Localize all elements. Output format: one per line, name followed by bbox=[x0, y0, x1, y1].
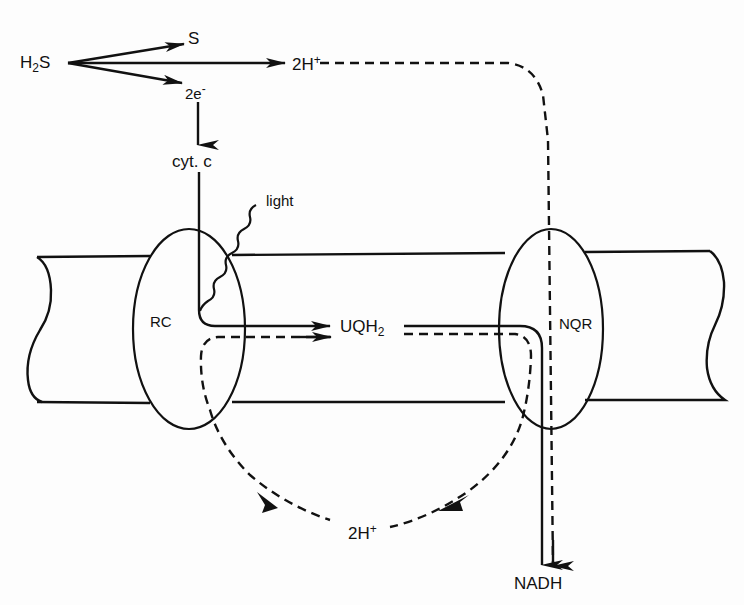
sulfur-label: S bbox=[188, 30, 199, 47]
diagram-graphics bbox=[0, 0, 744, 605]
proton-path-rc-uqh2 bbox=[201, 337, 330, 520]
protons-bottom-label: 2H+ bbox=[348, 523, 377, 542]
nqr-label: NQR bbox=[559, 316, 592, 331]
h2s-arrows bbox=[68, 44, 285, 83]
proton-path-top bbox=[320, 63, 553, 565]
cytochrome-c-label: cyt. c bbox=[172, 153, 212, 170]
protons-top-label: 2H+ bbox=[292, 54, 321, 73]
arc-arrowhead-left bbox=[257, 492, 278, 513]
arc-arrowhead-right bbox=[438, 495, 469, 511]
electrons-label: 2e- bbox=[185, 83, 206, 101]
electron-path-nqr bbox=[404, 326, 542, 565]
reaction-center-label: RC bbox=[150, 314, 172, 329]
proton-path-nqr bbox=[390, 334, 531, 527]
ubiquinol-label: UQH2 bbox=[340, 318, 384, 338]
diagram-canvas: H2S S 2H+ 2e- cyt. c light RC UQH2 NQR 2… bbox=[0, 0, 744, 605]
light-label: light bbox=[266, 193, 294, 208]
nadh-label: NADH bbox=[514, 575, 562, 592]
h2s-label: H2S bbox=[20, 54, 50, 74]
electron-path-rc bbox=[199, 172, 330, 326]
